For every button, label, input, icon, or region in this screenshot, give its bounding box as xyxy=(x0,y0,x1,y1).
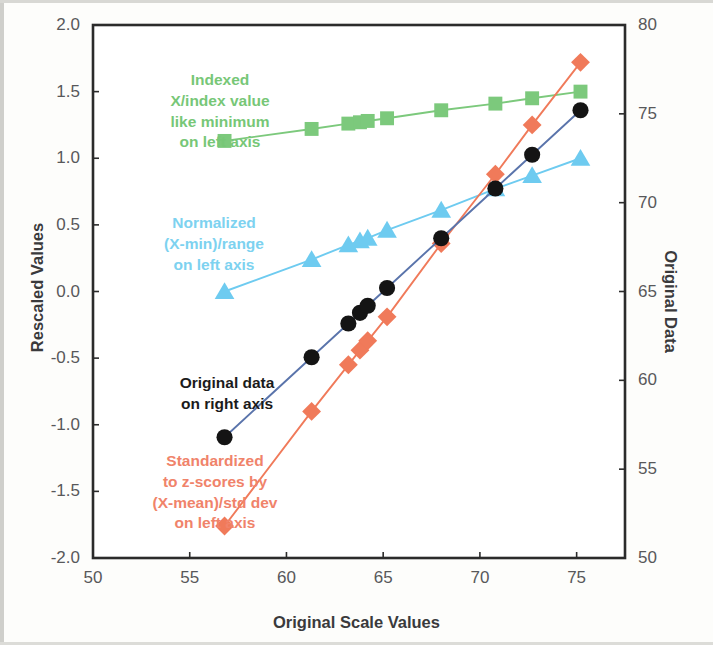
data-point-circle xyxy=(433,230,449,246)
data-point-circle xyxy=(360,298,376,314)
data-point-square xyxy=(361,114,375,128)
x-axis-title: Original Scale Values xyxy=(0,613,713,632)
data-point-square xyxy=(305,122,319,136)
annotation-line-0: Standardized xyxy=(120,451,310,472)
annotation-line-1: X/index value xyxy=(145,91,295,112)
annotation-line-2: like minimum xyxy=(145,112,295,133)
data-point-square xyxy=(380,111,394,125)
y-tick-label-right: 50 xyxy=(638,548,690,568)
y-tick-label-right: 80 xyxy=(638,15,690,35)
data-point-circle xyxy=(487,180,503,196)
data-point-circle xyxy=(572,102,588,118)
annotation-line-0: Indexed xyxy=(145,70,295,91)
y-tick-label-left: 0.0 xyxy=(18,282,80,302)
y-tick-label-right: 60 xyxy=(638,370,690,390)
annotation-line-2: (X-mean)/std dev xyxy=(120,493,310,514)
y-tick-label-left: -1.0 xyxy=(18,415,80,435)
y-tick-label-right: 55 xyxy=(638,459,690,479)
y-tick-label-right: 65 xyxy=(638,282,690,302)
x-tick-label: 65 xyxy=(357,568,409,588)
chart-plot-area xyxy=(0,0,713,645)
data-point-square xyxy=(574,85,588,99)
annotation-line-1: on right axis xyxy=(152,394,302,415)
y-tick-label-left: 0.5 xyxy=(18,215,80,235)
annotation-line-3: on left axis xyxy=(145,132,295,153)
data-point-square xyxy=(525,91,539,105)
annotation-line-1: (X-min)/range xyxy=(131,234,297,255)
x-tick-label: 75 xyxy=(551,568,603,588)
x-tick-label: 60 xyxy=(260,568,312,588)
figure-canvas: Rescaled Values Original Data Original S… xyxy=(0,0,713,645)
annotation-line-2: on left axis xyxy=(131,255,297,276)
data-point-circle xyxy=(379,280,395,296)
x-tick-label: 70 xyxy=(454,568,506,588)
data-point-square xyxy=(488,97,502,111)
data-point-circle xyxy=(524,147,540,163)
data-point-circle xyxy=(216,429,232,445)
y-tick-label-left: 1.5 xyxy=(18,82,80,102)
annotation-original-data: Original dataon right axis xyxy=(152,373,302,415)
x-tick-label: 50 xyxy=(67,568,119,588)
y-tick-label-right: 75 xyxy=(638,104,690,124)
annotation-standardized: Standardizedto z-scores by(X-mean)/std d… xyxy=(120,451,310,534)
annotation-normalized: Normalized(X-min)/rangeon left axis xyxy=(131,213,297,275)
data-point-square xyxy=(434,103,448,117)
y-axis-title-right: Original Data xyxy=(661,232,680,372)
y-tick-label-right: 70 xyxy=(638,193,690,213)
annotation-indexed: IndexedX/index valuelike minimumon left … xyxy=(145,70,295,153)
x-tick-label: 55 xyxy=(164,568,216,588)
annotation-line-3: on left axis xyxy=(120,513,310,534)
y-tick-label-left: -0.5 xyxy=(18,348,80,368)
annotation-line-0: Normalized xyxy=(131,213,297,234)
annotation-line-0: Original data xyxy=(152,373,302,394)
y-tick-label-left: -2.0 xyxy=(18,548,80,568)
y-tick-label-left: 1.0 xyxy=(18,148,80,168)
y-tick-label-left: 2.0 xyxy=(18,15,80,35)
annotation-line-1: to z-scores by xyxy=(120,472,310,493)
y-tick-label-left: -1.5 xyxy=(18,481,80,501)
data-point-circle xyxy=(304,349,320,365)
